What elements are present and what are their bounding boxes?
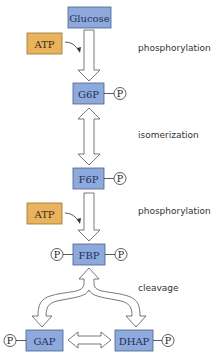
step-label-isomerization: isomerization (138, 130, 199, 140)
f6p-label: F6P (78, 174, 98, 185)
phosphate-icon: P (4, 335, 16, 347)
phosphate-icon: P (51, 249, 63, 261)
arrow-g6p-f6p-reversible (78, 108, 100, 165)
glycolysis-diagram: Glucose ATP G6P P F6P P ATP FBP (0, 0, 222, 361)
gap-label: GAP (34, 336, 56, 347)
phosphate-icon: P (162, 335, 174, 347)
molecule-f6p: F6P P (73, 168, 126, 189)
phosphate-icon: P (115, 249, 127, 261)
atp2-label: ATP (33, 209, 54, 220)
arrow-fbp-cleavage-split (32, 268, 146, 327)
cofactor-atp-2: ATP (27, 203, 62, 224)
svg-text:P: P (118, 249, 125, 260)
dhap-label: DHAP (119, 336, 150, 347)
atp1-curved-arrow (65, 42, 79, 51)
arrow-f6p-to-fbp (78, 193, 100, 241)
atp2-curved-arrow (65, 213, 79, 222)
svg-text:P: P (54, 249, 61, 260)
step-label-phosphorylation-2: phosphorylation (138, 206, 211, 216)
g6p-label: G6P (78, 89, 99, 100)
molecule-fbp: FBP P P (51, 244, 127, 265)
phosphate-icon: P (114, 88, 126, 100)
svg-text:P: P (165, 335, 172, 346)
arrow-glucose-to-g6p (78, 30, 100, 81)
step-label-cleavage: cleavage (138, 283, 179, 293)
cofactor-atp-1: ATP (27, 33, 62, 54)
fbp-label: FBP (78, 250, 99, 261)
atp2-arrowhead (77, 218, 81, 224)
svg-text:P: P (117, 173, 124, 184)
svg-text:P: P (7, 335, 14, 346)
molecule-glucose: Glucose (68, 7, 111, 28)
step-label-phosphorylation-1: phosphorylation (138, 43, 211, 53)
atp1-arrowhead (77, 47, 81, 53)
atp1-label: ATP (33, 39, 54, 50)
phosphate-icon: P (114, 173, 126, 185)
molecule-g6p: G6P P (73, 83, 126, 104)
molecule-dhap: DHAP P (115, 330, 174, 351)
molecule-gap: GAP P (4, 330, 63, 351)
arrow-gap-dhap-reversible (68, 332, 111, 348)
glucose-label: Glucose (69, 13, 109, 24)
svg-text:P: P (117, 88, 124, 99)
